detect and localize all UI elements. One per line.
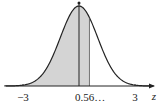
shaded-area <box>4 6 89 86</box>
tick-label-3: 3 <box>132 91 138 103</box>
tick-label-056: 0.56… <box>75 91 105 103</box>
tick-label-neg3: −3 <box>17 91 29 103</box>
axis-label-z: z <box>151 90 157 102</box>
normal-distribution-chart: −3 0.56… 3 z <box>0 0 161 109</box>
x-axis-arrow-icon <box>149 84 155 89</box>
peak-marker <box>78 2 81 5</box>
